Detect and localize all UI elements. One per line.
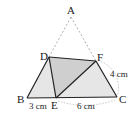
label-C: C (119, 93, 126, 105)
measure-BE: 3 cm (29, 101, 47, 111)
measure-EC: 6 cm (77, 101, 95, 111)
label-A: A (67, 4, 75, 16)
label-D: D (40, 50, 48, 62)
geometry-diagram: A B C D E F 3 cm 6 cm 4 cm (0, 0, 135, 123)
dashed-line-AD (49, 17, 71, 57)
dashed-line-AF (71, 17, 96, 61)
label-B: B (17, 93, 24, 105)
label-E: E (51, 99, 58, 111)
label-F: F (97, 51, 103, 63)
measure-FC: 4 cm (110, 69, 128, 79)
